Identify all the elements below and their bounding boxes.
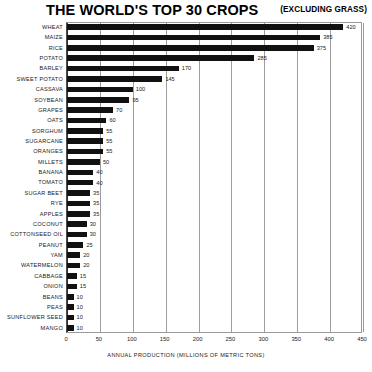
bar-row: SUNFLOWER SEED10 (0, 312, 372, 322)
bar (67, 242, 83, 248)
bar-and-value: 35 (67, 198, 99, 208)
bar-value-label: 145 (165, 74, 174, 84)
bar (67, 170, 93, 176)
bar-category-label: SUNFLOWER SEED (0, 312, 63, 322)
bar-and-value: 10 (67, 312, 83, 322)
bar-category-label: APPLES (0, 209, 63, 219)
bar-row: YAM20 (0, 250, 372, 260)
bar (67, 149, 103, 155)
bar (67, 76, 162, 82)
bar (67, 294, 74, 300)
x-tick-label-300: 300 (258, 336, 268, 342)
x-axis-ticks: 050100150200250300350400450 (66, 333, 362, 347)
x-tick-label-350: 350 (291, 336, 301, 342)
bar-row: RYE35 (0, 198, 372, 208)
bar (67, 221, 87, 227)
bar-row: SWEET POTATO145 (0, 74, 372, 84)
bar-value-label: 385 (323, 32, 332, 42)
bar-category-label: SWEET POTATO (0, 74, 63, 84)
bar-row: MAIZE385 (0, 32, 372, 42)
bar-row: PEANUT25 (0, 240, 372, 250)
bar-value-label: 55 (106, 136, 112, 146)
chart-subtitle-note: (EXCLUDING GRASS) (280, 5, 367, 14)
bar-and-value: 145 (67, 74, 175, 84)
bar-category-label: CABBAGE (0, 271, 63, 281)
x-tick-label-200: 200 (193, 336, 203, 342)
bar-value-label: 100 (136, 84, 145, 94)
bar-value-label: 60 (109, 115, 115, 125)
bar-category-label: BANANA (0, 167, 63, 177)
bar-and-value: 70 (67, 105, 122, 115)
bar-row: WHEAT420 (0, 22, 372, 32)
bar-value-label: 50 (103, 157, 109, 167)
bar-and-value: 55 (67, 146, 112, 156)
chart-title: THE WORLD'S TOP 30 CROPS (46, 2, 258, 18)
bar-and-value: 100 (67, 84, 145, 94)
bar-and-value: 30 (67, 229, 96, 239)
bar-and-value: 55 (67, 136, 112, 146)
bar (67, 87, 133, 93)
bar (67, 304, 74, 310)
x-tick-label-150: 150 (160, 336, 170, 342)
bar-value-label: 20 (83, 250, 89, 260)
bar-category-label: COTTONSEED OIL (0, 229, 63, 239)
bar-row: BARLEY170 (0, 63, 372, 73)
bar-category-label: RICE (0, 43, 63, 53)
bar-value-label: 15 (80, 281, 86, 291)
bar (67, 138, 103, 144)
bar (67, 325, 74, 331)
bar-value-label: 20 (83, 260, 89, 270)
bar-value-label: 95 (132, 95, 138, 105)
bar-value-label: 55 (106, 126, 112, 136)
bar (67, 159, 100, 165)
bar-and-value: 40 (67, 167, 103, 177)
bar (67, 45, 314, 51)
bar (67, 232, 87, 238)
x-axis-label: ANNUAL PRODUCTION (MILLIONS OF METRIC TO… (0, 352, 372, 358)
bar-category-label: WHEAT (0, 22, 63, 32)
bar-category-label: OATS (0, 115, 63, 125)
bar-and-value: 285 (67, 53, 267, 63)
bar (67, 315, 74, 321)
bar (67, 118, 106, 124)
bar-value-label: 40 (96, 167, 102, 177)
bar-value-label: 35 (93, 188, 99, 198)
bar-category-label: ONION (0, 281, 63, 291)
bar-category-label: COCONUT (0, 219, 63, 229)
bar-category-label: GRAPES (0, 105, 63, 115)
bar-category-label: MAIZE (0, 32, 63, 42)
bar-value-label: 35 (93, 209, 99, 219)
bar-and-value: 375 (67, 43, 326, 53)
x-tick-label-0: 0 (64, 336, 67, 342)
bar (67, 35, 320, 41)
bar-value-label: 15 (80, 271, 86, 281)
bar-row: COTTONSEED OIL30 (0, 229, 372, 239)
bar-and-value: 60 (67, 115, 116, 125)
bar-and-value: 40 (67, 178, 103, 188)
bar-value-label: 30 (90, 229, 96, 239)
bar-row: TOMATO40 (0, 178, 372, 188)
bar-row: OATS60 (0, 115, 372, 125)
bar-and-value: 35 (67, 188, 99, 198)
bar-row: SUGAR BEET35 (0, 188, 372, 198)
bar-category-label: MANGO (0, 323, 63, 333)
bar-row: RICE375 (0, 43, 372, 53)
bar-row: CABBAGE15 (0, 271, 372, 281)
bar (67, 97, 129, 103)
bar-value-label: 10 (77, 312, 83, 322)
bar-and-value: 20 (67, 260, 89, 270)
x-tick-label-250: 250 (226, 336, 236, 342)
bar (67, 284, 77, 290)
bar-and-value: 420 (67, 22, 356, 32)
bar-row: WATERMELON20 (0, 260, 372, 270)
x-tick-label-400: 400 (324, 336, 334, 342)
bar-category-label: PEANUT (0, 240, 63, 250)
bar-category-label: ORANGES (0, 146, 63, 156)
bar-value-label: 25 (86, 240, 92, 250)
bar (67, 128, 103, 134)
bar-category-label: RYE (0, 198, 63, 208)
bar-and-value: 385 (67, 32, 333, 42)
bar (67, 107, 113, 113)
bar-value-label: 10 (77, 292, 83, 302)
bar-category-label: YAM (0, 250, 63, 260)
